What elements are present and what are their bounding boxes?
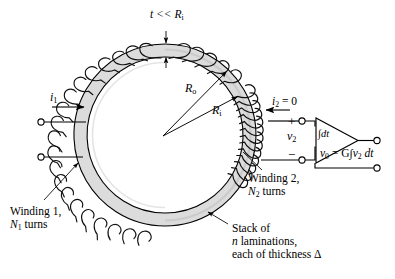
core-shading xyxy=(165,50,251,221)
primary-terminal-bottom[interactable] xyxy=(38,154,44,160)
label-thickness-note: t << Ri xyxy=(150,8,184,22)
label-integrator-block: ∫dt xyxy=(318,128,329,140)
diagram-canvas xyxy=(0,0,395,279)
label-winding-2-line2: N2 turns xyxy=(248,185,299,199)
label-winding-2: Winding 2, N2 turns xyxy=(248,172,299,199)
output-lead-bottom xyxy=(315,163,374,168)
label-output-equation: v0 = G∫v2 dt xyxy=(320,147,374,161)
label-winding-1-line2: N1 turns xyxy=(10,218,61,232)
label-stack-line2: n laminations, xyxy=(232,235,321,248)
label-radius-outer: Ro xyxy=(185,82,196,97)
label-voltage-secondary: v2 xyxy=(287,130,296,145)
output-terminal-bottom[interactable] xyxy=(374,165,380,171)
output-terminal-top[interactable] xyxy=(374,137,380,143)
label-stack-line3: each of thickness Δ xyxy=(232,248,321,261)
label-winding-1-line1: Winding 1, xyxy=(10,205,61,218)
secondary-terminal-top[interactable] xyxy=(299,118,305,124)
radius-inner-arrow xyxy=(163,97,238,137)
figure-toroid-transformer: t << Ri Ro Ri i1 i2 = 0 + v2 − ∫dt v0 = … xyxy=(0,0,395,279)
leader-stack xyxy=(208,212,228,224)
label-current-primary: i1 xyxy=(50,91,57,106)
amp-input-bottom-wire xyxy=(305,147,315,161)
primary-terminal-top[interactable] xyxy=(38,119,44,125)
label-winding-1: Winding 1, N1 turns xyxy=(10,205,61,232)
label-terminal-minus: − xyxy=(288,148,295,163)
label-radius-inner: Ri xyxy=(212,104,222,119)
label-current-secondary: i2 = 0 xyxy=(272,95,297,109)
label-stack-line1: Stack of xyxy=(232,222,321,235)
label-terminal-plus: + xyxy=(288,115,295,130)
label-winding-2-line1: Winding 2, xyxy=(248,172,299,185)
label-lamination-stack: Stack of n laminations, each of thicknes… xyxy=(232,222,321,262)
amp-input-top-wire xyxy=(305,121,315,127)
secondary-terminal-bottom[interactable] xyxy=(299,157,305,163)
